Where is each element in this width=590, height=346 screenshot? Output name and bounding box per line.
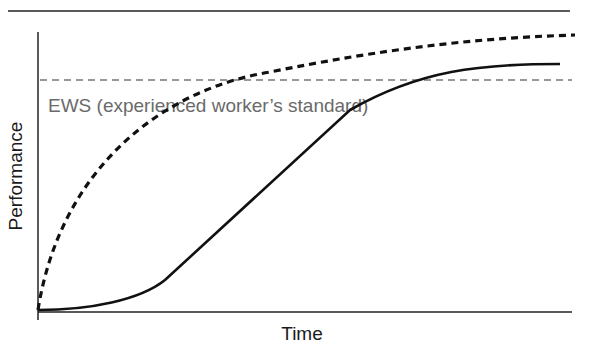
- y-axis-label: Performance: [5, 122, 26, 231]
- learning-curve-chart: EWS (experienced worker’s standard) Time…: [0, 0, 590, 346]
- ews-label: EWS (experienced worker’s standard): [48, 95, 368, 116]
- x-axis-label: Time: [281, 323, 323, 344]
- dashed-performance-curve: [38, 35, 575, 310]
